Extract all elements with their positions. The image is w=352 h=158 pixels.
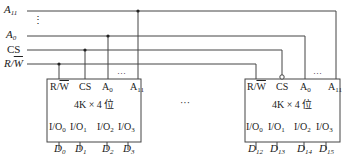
pin-io2: I/O2 — [97, 121, 114, 136]
pin-io0: I/O0 — [246, 121, 263, 136]
pin-ellipsis: ··· — [117, 68, 126, 79]
pin-cs: CS — [79, 81, 91, 92]
pin-io1: I/O1 — [268, 121, 285, 136]
pin-rw: R/W — [50, 81, 69, 92]
pin-a11: A11 — [328, 81, 342, 96]
data-line-d13: D13 — [270, 143, 285, 158]
signal-cs-label: CS — [7, 44, 20, 55]
data-line-d3: D3 — [123, 143, 134, 158]
data-line-d1: D1 — [75, 143, 86, 158]
data-line-d12: D12 — [248, 143, 263, 158]
data-line-d0: D0 — [54, 143, 65, 158]
signal-a11-label: A11 — [4, 4, 17, 19]
pin-cs: CS — [276, 81, 288, 92]
pin-io0: I/O0 — [49, 121, 66, 136]
pin-a11: A11 — [130, 81, 144, 96]
chip-title: 4K × 4 位 — [74, 99, 114, 110]
data-line-d14: D14 — [297, 143, 312, 158]
pin-a0: A0 — [102, 81, 113, 96]
pin-a0: A0 — [300, 81, 311, 96]
pin-io2: I/O2 — [294, 121, 311, 136]
signal-a0-label: A0 — [6, 29, 16, 44]
pin-io3: I/O3 — [118, 121, 135, 136]
pin-io3: I/O3 — [316, 121, 333, 136]
data-line-d15: D15 — [319, 143, 334, 158]
chip-title: 4K × 4 位 — [272, 99, 312, 110]
data-line-d2: D2 — [102, 143, 113, 158]
signal-rw-label: R/W — [4, 58, 23, 69]
pin-ellipsis: ··· — [313, 68, 322, 79]
chips-ellipsis: ··· — [180, 97, 190, 108]
vertical-ellipsis: ⋮ — [33, 14, 43, 25]
pin-rw: R/W — [247, 81, 266, 92]
pin-io1: I/O1 — [70, 121, 87, 136]
